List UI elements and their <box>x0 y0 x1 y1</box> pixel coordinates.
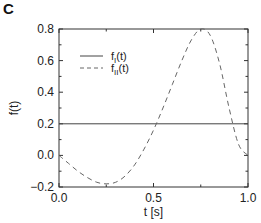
y-tick-label: 0.8 <box>37 22 54 36</box>
x-tick-label: 0.0 <box>51 191 68 205</box>
plot-frame <box>59 29 248 187</box>
y-tick-label: 0.6 <box>37 54 54 68</box>
legend-label: fII(t) <box>111 62 129 77</box>
y-tick-label: 0.0 <box>37 148 54 162</box>
y-tick-label: 0.4 <box>37 85 54 99</box>
legend: fI(t)fII(t) <box>80 50 129 77</box>
y-axis-label: f(t) <box>7 101 21 116</box>
plot-axes: −0.20.00.20.40.60.80.00.51.0t [s]f(t) <box>7 22 257 219</box>
series-layer <box>59 29 248 184</box>
x-tick-label: 0.5 <box>145 191 162 205</box>
x-tick-label: 1.0 <box>240 191 257 205</box>
x-axis-label: t [s] <box>144 205 163 219</box>
series-line-2 <box>59 29 248 184</box>
line-chart: −0.20.00.20.40.60.80.00.51.0t [s]f(t) fI… <box>0 0 261 223</box>
y-tick-label: 0.2 <box>37 117 54 131</box>
